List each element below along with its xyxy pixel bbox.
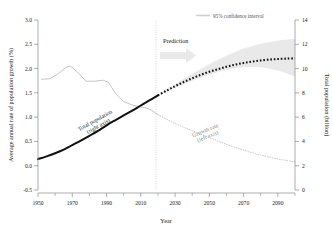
y-axis-right-tick-label: 2: [302, 163, 305, 169]
y-axis-right-tick-label: 6: [302, 114, 305, 120]
y-axis-left-tick-label: 2.5: [25, 41, 32, 47]
y-axis-left-tick-label: 2.0: [25, 66, 32, 72]
x-axis-tick-label: 2010: [135, 200, 146, 206]
x-axis-title: Year: [160, 217, 171, 224]
growth-rate-projection-line: [158, 115, 295, 162]
x-axis-tick-label: 2050: [204, 200, 215, 206]
y-axis-left-tick-label: 1.0: [25, 114, 32, 120]
y-axis-right: 02468101214: [295, 17, 308, 193]
legend-ci-label: 95% confidence interval: [213, 13, 264, 19]
population-projection-chart: -0.50.00.51.01.52.02.53.0 02468101214 19…: [0, 0, 333, 231]
chart-canvas: -0.50.00.51.01.52.02.53.0 02468101214 19…: [0, 0, 333, 231]
x-axis-tick-label: 2070: [238, 200, 249, 206]
y-axis-left-ticks: -0.50.00.51.01.52.02.53.0: [23, 17, 38, 193]
growth-rate-annotation: Growth rate (left axis): [191, 122, 222, 145]
x-axis: 19501970199020102030205020702090: [32, 193, 295, 206]
series-group: [38, 58, 295, 161]
growth-rate-historical-line: [41, 66, 157, 115]
x-axis-ticks: 19501970199020102030205020702090: [32, 193, 295, 206]
x-axis-tick-label: 2090: [272, 200, 283, 206]
legend: 95% confidence interval: [196, 13, 264, 19]
y-axis-right-tick-label: 0: [302, 187, 305, 193]
y-axis-left-tick-label: 0.0: [25, 163, 32, 169]
y-axis-left-title: Average annual rate of population growth…: [7, 48, 15, 162]
y-axis-right-tick-label: 12: [302, 41, 308, 47]
y-axis-left-tick-label: -0.5: [23, 187, 32, 193]
y-axis-right-title: Total population (billion): [323, 74, 331, 136]
y-axis-right-tick-label: 14: [302, 17, 308, 23]
y-axis-left-tick-label: 0.5: [25, 138, 32, 144]
y-axis-left: -0.50.00.51.01.52.02.53.0: [23, 17, 38, 193]
x-axis-tick-label: 1970: [67, 200, 78, 206]
x-axis-tick-label: 2030: [169, 200, 180, 206]
prediction-label: Prediction: [163, 37, 188, 44]
x-axis-tick-label: 1950: [32, 200, 43, 206]
y-axis-left-tick-label: 3.0: [25, 17, 32, 23]
prediction-arrow-icon: [160, 48, 196, 63]
y-axis-right-ticks: 02468101214: [295, 17, 308, 193]
x-axis-tick-label: 1990: [101, 200, 112, 206]
y-axis-left-tick-label: 1.5: [25, 90, 32, 96]
y-axis-right-tick-label: 4: [302, 138, 305, 144]
y-axis-right-tick-label: 10: [302, 66, 308, 72]
y-axis-right-tick-label: 8: [302, 90, 305, 96]
